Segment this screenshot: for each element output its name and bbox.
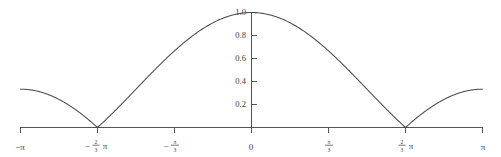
x-axis-label-zero: 0 [249, 142, 254, 152]
x-axis-label-neg-pi-over-3-minus: − [163, 141, 168, 151]
x-axis-label-neg-two-thirds-pi-pi: π [103, 141, 108, 151]
x-axis-label-neg-two-thirds-pi-minus: − [84, 141, 89, 151]
x-axis-label-neg-pi-over-3-denominator: 3 [174, 147, 177, 153]
chart-figure: 1.0 0.8 0.6 0.4 0.2 −π − 2 3 π − π 3 0 [0, 0, 501, 157]
x-axis-label-neg-two-thirds-pi-denominator: 3 [95, 147, 98, 153]
x-axis-label-neg-pi-text: −π [15, 142, 25, 152]
x-axis-label-pi-over-3-numerator: π [328, 139, 331, 145]
y-axis-label-0.6: 0.6 [235, 53, 246, 63]
y-axis-label-0.2: 0.2 [235, 99, 246, 109]
y-axis-label-1.0: 1.0 [235, 7, 246, 17]
x-axis-label-pi-over-3-denominator: 3 [328, 147, 331, 153]
x-axis-label-two-thirds-pi-denominator: 3 [401, 147, 404, 153]
dirichlet-kernel-plot: 1.0 0.8 0.6 0.4 0.2 −π − 2 3 π − π 3 0 [0, 0, 501, 157]
x-axis-label-neg-two-thirds-pi: − 2 3 π [84, 139, 107, 153]
x-axis-label-pi: π [481, 142, 486, 152]
x-axis-label-neg-pi: −π [15, 142, 25, 152]
x-axis-label-neg-two-thirds-pi-numerator: 2 [95, 139, 98, 145]
y-axis-label-0.4: 0.4 [235, 76, 246, 86]
y-axis-label-0.8: 0.8 [235, 30, 246, 40]
x-axis-label-neg-pi-over-3-numerator: π [174, 139, 177, 145]
x-axis-label-two-thirds-pi-numerator: 2 [401, 139, 404, 145]
x-axis-label-two-thirds-pi-pi: π [409, 141, 414, 151]
plot-background [0, 0, 501, 157]
